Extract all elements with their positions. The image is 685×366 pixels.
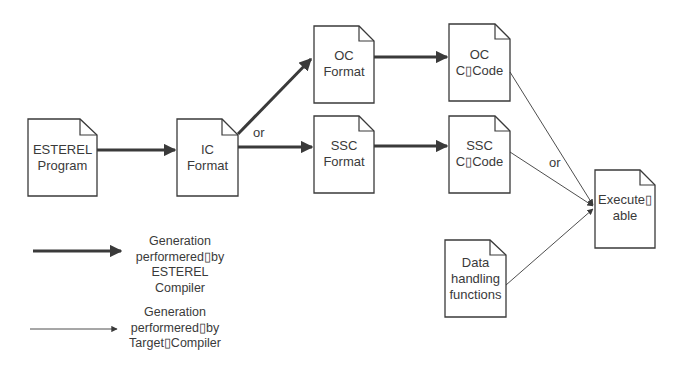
label-line: Format [314, 64, 374, 80]
label-line: Format [177, 158, 238, 174]
edge-ic-to-oc-format [238, 59, 311, 134]
label-esterel-program: ESTEREL Program [28, 142, 97, 174]
label-line: C▯Code [449, 154, 510, 170]
legend-thin-label: Generation performered▯by Target▯Compile… [120, 305, 230, 352]
label-line: able [595, 208, 655, 224]
label-line: C▯Code [449, 63, 510, 79]
label-executable: Execute▯ able [595, 192, 655, 224]
edge-data-handling-to-executable [506, 209, 593, 285]
legend-line: performered▯by [120, 321, 230, 337]
label-line: SSC [314, 138, 374, 154]
label-ssc-format: SSC Format [314, 138, 374, 170]
label-line: Data [445, 255, 506, 271]
label-oc-c-code: OC C▯Code [449, 47, 510, 79]
label-line: functions [445, 287, 506, 303]
label-line: Execute▯ [595, 192, 655, 208]
label-ssc-c-code: SSC C▯Code [449, 138, 510, 170]
legend-thick-label: Generation performered▯by ESTEREL Compil… [125, 234, 235, 296]
label-line: OC [314, 48, 374, 64]
or-label-executable-branch: or [549, 155, 561, 170]
legend-line: ESTEREL [125, 265, 235, 281]
legend-line: Target▯Compiler [120, 336, 230, 352]
legend-line: performered▯by [125, 250, 235, 266]
label-line: OC [449, 47, 510, 63]
legend-line: Generation [120, 305, 230, 321]
label-ic-format: IC Format [177, 142, 238, 174]
legend-line: Compiler [125, 281, 235, 297]
legend-line: Generation [125, 234, 235, 250]
label-line: Format [314, 154, 374, 170]
label-line: IC [177, 142, 238, 158]
label-line: ESTEREL [28, 142, 97, 158]
label-oc-format: OC Format [314, 48, 374, 80]
label-line: SSC [449, 138, 510, 154]
label-line: handling [445, 271, 506, 287]
edge-oc-c-code-to-executable [510, 72, 593, 205]
or-label-ic-branch: or [253, 125, 265, 140]
label-line: Program [28, 158, 97, 174]
label-data-handling-functions: Data handling functions [445, 255, 506, 303]
